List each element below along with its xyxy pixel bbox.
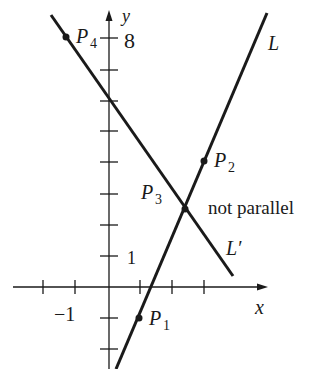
- x-axis: [13, 280, 268, 294]
- svg-text:1: 1: [163, 318, 170, 333]
- coordinate-plane: y 8 1 −1 x L L′ P 4 P 2 P 3 P 1 not para…: [0, 0, 324, 369]
- svg-text:P: P: [213, 149, 226, 171]
- y-axis-arrow-icon: [106, 10, 113, 21]
- point-P2: [201, 158, 208, 165]
- line-L-label: L: [267, 32, 279, 54]
- point-P4: [63, 34, 70, 41]
- line-L-prime-label: L′: [225, 237, 242, 259]
- x-axis-arrow-icon: [257, 284, 268, 291]
- svg-text:2: 2: [228, 160, 235, 175]
- line-L-prime: [51, 15, 233, 276]
- x-axis-label: x: [254, 296, 264, 318]
- y-tick-label-1: 1: [127, 248, 136, 268]
- point-P3: [182, 206, 189, 213]
- y-axis: [100, 10, 118, 369]
- point-P2-label: P 2: [213, 149, 235, 175]
- point-P3-label: P 3: [140, 181, 162, 207]
- point-P4-label: P 4: [75, 25, 97, 51]
- svg-text:P: P: [148, 307, 161, 329]
- svg-text:P: P: [140, 181, 153, 203]
- x-tick-label-neg1: −1: [54, 303, 75, 325]
- not-parallel-annotation: not parallel: [208, 197, 294, 218]
- point-P1-label: P 1: [148, 307, 170, 333]
- svg-text:4: 4: [90, 36, 97, 51]
- svg-text:3: 3: [155, 192, 162, 207]
- y-tick-label-8: 8: [124, 28, 135, 53]
- svg-text:P: P: [75, 25, 88, 47]
- y-axis-label: y: [120, 6, 130, 26]
- point-P1: [136, 315, 143, 322]
